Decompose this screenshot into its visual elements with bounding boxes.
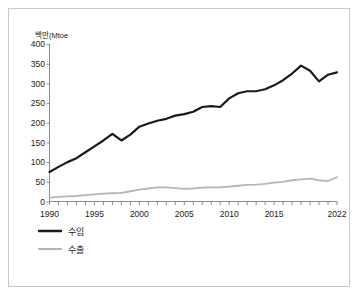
- y-tick-label: 400: [31, 39, 45, 49]
- chart-plot-wrapper: 백만(Mtoe 050100150200250300350400 1990199…: [9, 9, 351, 288]
- x-axis-tick-marks: [50, 202, 338, 206]
- y-tick-label: 300: [31, 79, 45, 89]
- chart-legend: 수입수출: [39, 226, 84, 255]
- legend-label-수입: 수입: [68, 226, 84, 237]
- x-tick-label: 1990: [40, 209, 59, 219]
- series-line-수입: [50, 66, 338, 172]
- series-line-수출: [50, 177, 338, 197]
- x-tick-label: 2022: [328, 209, 347, 219]
- y-tick-label: 50: [36, 177, 46, 187]
- y-tick-label: 350: [31, 59, 45, 69]
- y-axis-tick-labels: 050100150200250300350400: [31, 39, 45, 207]
- y-tick-label: 100: [31, 157, 45, 167]
- x-tick-label: 2015: [265, 209, 284, 219]
- legend-label-수출: 수출: [68, 245, 84, 255]
- data-series-group: [50, 66, 338, 198]
- x-axis-tick-labels: 1990199520002005201020152022: [40, 209, 347, 219]
- line-chart: 백만(Mtoe 050100150200250300350400 1990199…: [9, 9, 351, 288]
- y-tick-label: 250: [31, 98, 45, 108]
- x-tick-label: 2000: [130, 209, 149, 219]
- y-tick-label: 150: [31, 138, 45, 148]
- x-tick-label: 1995: [85, 209, 104, 219]
- y-tick-label: 200: [31, 118, 45, 128]
- y-tick-label: 0: [40, 197, 45, 207]
- x-tick-label: 2010: [220, 209, 239, 219]
- chart-figure-frame: 백만(Mtoe 050100150200250300350400 1990199…: [8, 8, 350, 287]
- x-tick-label: 2005: [175, 209, 194, 219]
